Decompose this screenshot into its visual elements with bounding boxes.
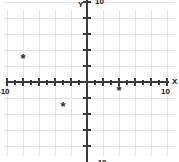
x-axis-label: X — [172, 78, 177, 86]
coordinate-plane-chart: *** Y X 10 -10 -10 10 — [0, 0, 179, 162]
y-tick-label-positive-ten: 10 — [95, 0, 104, 6]
x-tick-label-negative-ten: -10 — [0, 88, 10, 96]
chart-labels: Y X 10 -10 -10 10 — [0, 0, 179, 162]
y-axis-label: Y — [78, 1, 83, 9]
y-tick-label-negative-ten: -10 — [95, 159, 107, 162]
x-tick-label-positive-ten: 10 — [161, 88, 170, 96]
